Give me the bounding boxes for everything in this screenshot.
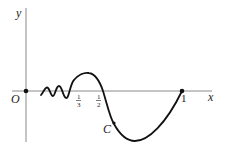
- curve-c: [41, 73, 182, 141]
- origin-point: [24, 89, 29, 94]
- y-axis-label: y: [15, 6, 22, 20]
- x-axis-label: x: [207, 90, 214, 104]
- curve-point-c: [112, 121, 115, 124]
- tick-one-label: 1: [181, 92, 187, 104]
- tick-half-denominator: 2: [97, 101, 101, 109]
- origin-label: O: [11, 92, 20, 106]
- tick-third-denominator: 3: [77, 101, 81, 109]
- graph-canvas: y x O 1 3 1 2 1 C: [0, 0, 226, 150]
- tick-third-numerator: 1: [77, 93, 81, 101]
- curve-label: C: [103, 122, 112, 136]
- tick-half-numerator: 1: [97, 93, 101, 101]
